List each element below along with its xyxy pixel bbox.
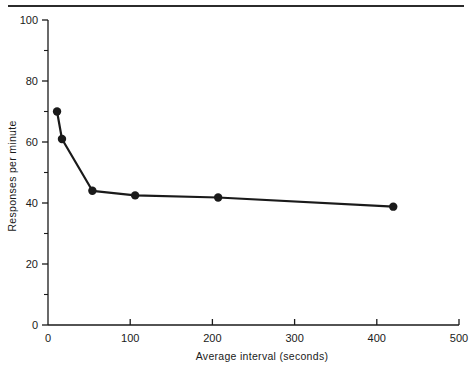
x-tick-label: 500	[450, 332, 468, 344]
x-tick-label: 100	[121, 332, 139, 344]
data-point	[58, 135, 66, 143]
data-point	[214, 193, 222, 201]
chart-figure: 020406080100 0100200300400500 Average in…	[0, 0, 472, 375]
data-series	[53, 107, 398, 211]
y-tick-label: 80	[26, 75, 38, 87]
x-axis: 0100200300400500	[45, 319, 468, 344]
x-tick-label: 0	[45, 332, 51, 344]
y-axis: 020406080100	[20, 14, 48, 331]
data-point	[53, 107, 61, 115]
y-tick-label: 40	[26, 197, 38, 209]
line-chart-plot: 020406080100 0100200300400500 Average in…	[0, 0, 472, 375]
data-point	[88, 187, 96, 195]
data-point	[131, 191, 139, 199]
x-tick-label: 400	[368, 332, 386, 344]
x-axis-title: Average interval (seconds)	[196, 350, 329, 362]
data-point	[389, 202, 397, 210]
x-tick-label: 200	[203, 332, 221, 344]
y-tick-label: 0	[32, 319, 38, 331]
y-axis-title: Responses per minute	[6, 120, 18, 231]
y-tick-label: 20	[26, 258, 38, 270]
x-tick-label: 300	[285, 332, 303, 344]
y-tick-label: 60	[26, 136, 38, 148]
y-tick-label: 100	[20, 14, 38, 26]
